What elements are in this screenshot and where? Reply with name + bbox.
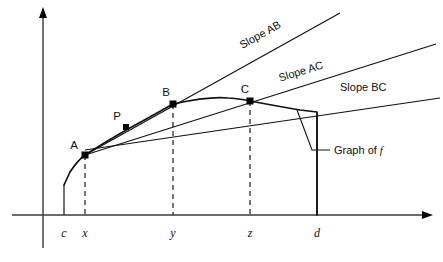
slope-label-ac: Slope AC xyxy=(277,59,324,84)
graph-of-f-label-italic: f xyxy=(380,144,385,156)
point-label-a: A xyxy=(70,139,78,151)
horizontal-axis-arrowhead xyxy=(422,211,433,219)
x-tick-label-c: c xyxy=(61,226,67,240)
slope-label-ab: Slope AB xyxy=(237,18,282,50)
x-tick-label-d: d xyxy=(314,226,321,240)
x-axis-tick-labels-group: c x y z d xyxy=(61,226,321,240)
point-marker-c xyxy=(247,98,254,105)
x-tick-label-y: y xyxy=(169,226,176,240)
slope-line-ab xyxy=(85,13,340,155)
graph-of-f-label: Graph of f xyxy=(334,144,385,156)
point-label-c: C xyxy=(241,83,249,95)
point-marker-b xyxy=(170,101,177,108)
x-tick-label-x: x xyxy=(81,226,88,240)
point-marker-p xyxy=(123,124,129,130)
axes-group xyxy=(12,7,433,248)
point-marker-a xyxy=(82,152,89,159)
graph-of-f-label-prefix: Graph of xyxy=(334,144,380,156)
slope-line-ac xyxy=(85,44,436,155)
vertical-axis-arrowhead xyxy=(39,7,47,18)
slope-label-bc: Slope BC xyxy=(340,81,387,93)
point-labels-group: A P B C xyxy=(70,83,249,151)
x-tick-label-z: z xyxy=(247,226,253,240)
graph-of-f-curve xyxy=(64,98,317,215)
point-label-b: B xyxy=(162,86,170,98)
point-label-p: P xyxy=(113,110,121,122)
drop-lines-group xyxy=(64,101,317,215)
figure-container: A P B C Slope AB Slope AC Slope BC Graph… xyxy=(0,0,443,262)
graph-of-f-curve-group xyxy=(64,98,317,215)
slope-labels-group: Slope AB Slope AC Slope BC xyxy=(237,18,386,93)
slope-diagram: A P B C Slope AB Slope AC Slope BC Graph… xyxy=(0,0,443,262)
